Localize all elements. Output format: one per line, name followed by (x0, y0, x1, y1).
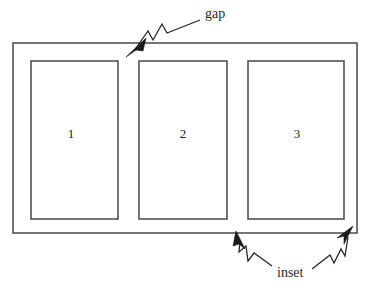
panel-2-label: 2 (180, 126, 187, 141)
inset-right-arrowhead-icon (337, 226, 353, 244)
diagram-canvas: 1 2 3 gap inset (0, 0, 370, 291)
inset-left-leader-line (239, 240, 272, 266)
panel-1-label: 1 (68, 126, 75, 141)
gap-annotation-label: gap (205, 6, 225, 21)
inset-right-leader-line (312, 237, 348, 269)
inset-annotation-label: inset (277, 265, 304, 280)
gap-inset-diagram: 1 2 3 gap inset (0, 0, 370, 291)
gap-arrowhead-icon (126, 38, 146, 57)
panel-1-rect[interactable] (31, 61, 118, 219)
panel-3-label: 3 (294, 126, 301, 141)
